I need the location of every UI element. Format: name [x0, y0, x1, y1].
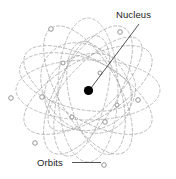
electron-marker — [118, 30, 123, 35]
orbits-label: Orbits — [37, 157, 63, 168]
electron-marker — [61, 61, 65, 65]
nucleus-label: Nucleus — [116, 9, 151, 20]
electron-marker — [136, 98, 141, 103]
electron-marker — [103, 120, 108, 125]
electron-marker — [49, 27, 54, 32]
atom-diagram: Nucleus Orbits — [0, 0, 176, 179]
electron-marker — [70, 115, 74, 119]
atom-illustration — [0, 0, 176, 179]
electron-marker — [9, 96, 14, 101]
electron-marker — [102, 163, 107, 168]
electron-marker — [40, 95, 45, 100]
electron-marker — [33, 141, 38, 146]
electron-marker — [115, 103, 119, 107]
nucleus-marker — [84, 86, 93, 95]
